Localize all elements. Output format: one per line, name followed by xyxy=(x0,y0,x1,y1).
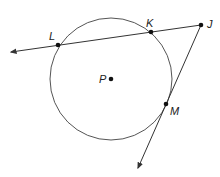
tangent-ray-jm xyxy=(138,25,201,168)
point-m xyxy=(164,102,169,107)
label-m: M xyxy=(170,105,180,117)
point-l xyxy=(56,43,61,48)
label-l: L xyxy=(49,30,55,42)
label-k: K xyxy=(146,17,154,29)
point-j xyxy=(199,23,204,28)
point-k xyxy=(149,30,154,35)
geometry-diagram: L K J P M xyxy=(0,0,220,177)
label-p: P xyxy=(99,73,107,85)
point-p xyxy=(109,77,114,82)
label-j: J xyxy=(206,18,213,30)
secant-line-jl xyxy=(11,25,201,52)
